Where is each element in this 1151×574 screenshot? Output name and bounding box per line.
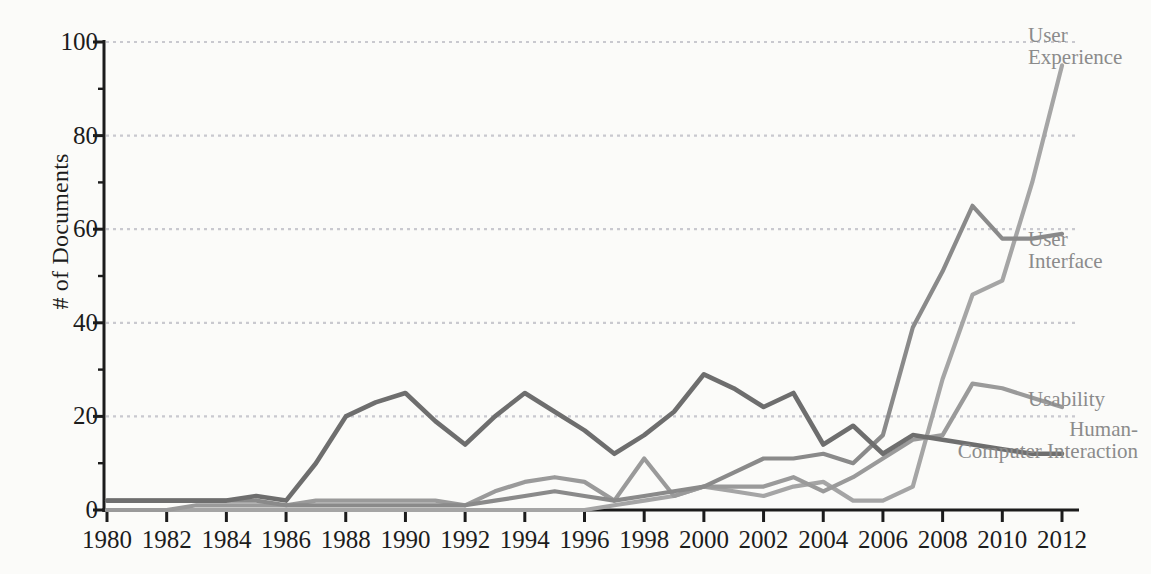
series-line-usability <box>107 384 1062 510</box>
series-line-user-experience <box>107 65 1062 510</box>
chart-canvas: # of Documents 020406080100 198019821984… <box>0 0 1151 574</box>
series-label-usability: Usability <box>1028 388 1105 410</box>
series-label-user-interface: User Interface <box>1028 228 1103 273</box>
series-label-human-computer-interaction: Human- Computer Interaction <box>958 418 1138 463</box>
series-label-user-experience: User Experience <box>1028 24 1122 69</box>
plot-svg <box>0 0 1151 574</box>
